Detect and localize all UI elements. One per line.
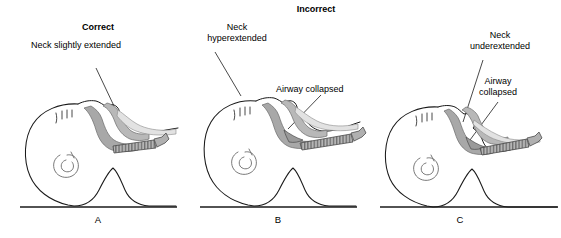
panel-b-hairline-ticks	[234, 107, 250, 120]
panel-b-neck-leader-line	[215, 52, 241, 96]
panel-b-ear	[232, 149, 257, 174]
panel-c-trachea-connector	[527, 132, 542, 146]
panel-b-illustration	[200, 52, 366, 207]
panel-b-head-outline	[204, 101, 356, 206]
panel-a-leader-line	[96, 68, 114, 106]
airway-positioning-figure: Incorrect Correct Neck slightly extended…	[0, 0, 561, 238]
panel-a-hairline-ticks	[56, 110, 72, 123]
panel-c-head-outline	[385, 107, 557, 207]
panel-a-illustration	[20, 68, 178, 207]
panel-c-hairline-ticks	[416, 113, 432, 126]
panel-c-illustration	[380, 60, 558, 207]
panel-a-ear	[54, 152, 79, 177]
anatomy-drawing	[0, 0, 561, 238]
panel-c-ear	[414, 155, 439, 180]
